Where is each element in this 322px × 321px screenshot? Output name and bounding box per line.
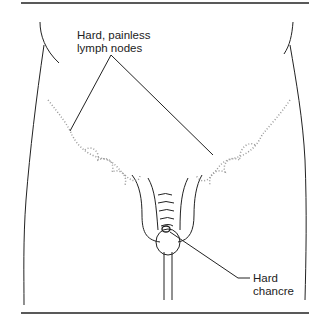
label-lymph-nodes-line2: lymph nodes <box>77 42 151 55</box>
label-chancre: Hard chancre <box>253 272 294 298</box>
label-chancre-line2: chancre <box>253 285 294 298</box>
body-outline <box>24 22 306 305</box>
lymph-node-chain-left <box>48 100 140 185</box>
lymph-node-chain-right <box>196 100 290 185</box>
label-chancre-line1: Hard <box>253 272 294 285</box>
label-lymph-nodes: Hard, painless lymph nodes <box>77 29 151 55</box>
label-lymph-nodes-line1: Hard, painless <box>77 29 151 42</box>
leader-lines <box>70 55 250 278</box>
